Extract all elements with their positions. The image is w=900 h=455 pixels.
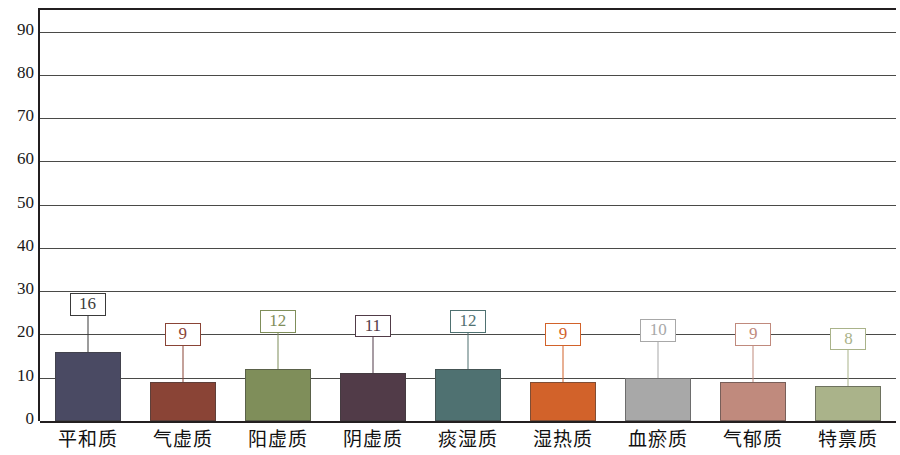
bar-value-label: 9 <box>165 323 201 346</box>
bar-value-label: 16 <box>70 293 106 316</box>
bar <box>720 382 786 421</box>
x-axis-tick-label: 特禀质 <box>801 424 896 451</box>
callout-stem <box>848 350 849 386</box>
callout-stem <box>467 333 468 369</box>
bar-chart: 9080706050403020100 16912111291098 平和质气虚… <box>0 0 900 455</box>
bar <box>815 386 881 421</box>
callout-stem <box>753 346 754 382</box>
x-axis-tick-label: 血瘀质 <box>611 424 706 451</box>
y-axis-tick-label: 10 <box>0 367 34 384</box>
bar-value-label: 11 <box>355 315 391 338</box>
x-axis-baseline <box>40 421 896 423</box>
bar-value-label: 12 <box>260 310 296 333</box>
bar <box>530 382 596 421</box>
bar-group: 11 <box>325 10 420 421</box>
x-axis-tick-label: 湿热质 <box>516 424 611 451</box>
bar <box>55 352 121 421</box>
callout-stem <box>658 342 659 378</box>
y-axis-tick-label: 90 <box>0 21 34 38</box>
bar-group: 9 <box>706 10 801 421</box>
y-axis-tick-label: 40 <box>0 237 34 254</box>
bar-value-label: 10 <box>640 319 676 342</box>
bar-group: 8 <box>801 10 896 421</box>
bar-value-label: 8 <box>830 328 866 351</box>
bar-group: 12 <box>420 10 515 421</box>
bar-group: 12 <box>230 10 325 421</box>
bar-group: 9 <box>135 10 230 421</box>
x-axis-category-labels: 平和质气虚质阳虚质阴虚质痰湿质湿热质血瘀质气郁质特禀质 <box>40 424 896 454</box>
bar-group: 9 <box>516 10 611 421</box>
x-axis-tick-label: 气虚质 <box>135 424 230 451</box>
bar-group: 10 <box>611 10 706 421</box>
bar-value-label: 9 <box>545 323 581 346</box>
callout-stem <box>563 346 564 382</box>
x-axis-tick-label: 阳虚质 <box>230 424 325 451</box>
y-axis-tick-label: 20 <box>0 323 34 340</box>
callout-stem <box>372 337 373 373</box>
x-axis-tick-label: 痰湿质 <box>420 424 515 451</box>
bar <box>245 369 311 421</box>
bar <box>625 378 691 421</box>
bar <box>435 369 501 421</box>
y-axis-tick-label: 50 <box>0 194 34 211</box>
bar-value-label: 9 <box>735 323 771 346</box>
y-axis-tick-label: 0 <box>0 410 34 427</box>
callout-stem <box>87 316 88 352</box>
y-axis-tick-label: 80 <box>0 64 34 81</box>
y-axis-tick-labels: 9080706050403020100 <box>0 8 34 421</box>
x-axis-tick-label: 气郁质 <box>706 424 801 451</box>
callout-stem <box>182 346 183 382</box>
bar-group: 16 <box>40 10 135 421</box>
x-axis-tick-label: 平和质 <box>40 424 135 451</box>
x-axis-tick-label: 阴虚质 <box>325 424 420 451</box>
bar <box>150 382 216 421</box>
bars-layer: 16912111291098 <box>40 10 896 421</box>
y-axis-tick-label: 60 <box>0 150 34 167</box>
bar-value-label: 12 <box>450 310 486 333</box>
bar <box>340 373 406 421</box>
callout-stem <box>277 333 278 369</box>
y-axis-tick-label: 30 <box>0 280 34 297</box>
y-axis-tick-label: 70 <box>0 107 34 124</box>
